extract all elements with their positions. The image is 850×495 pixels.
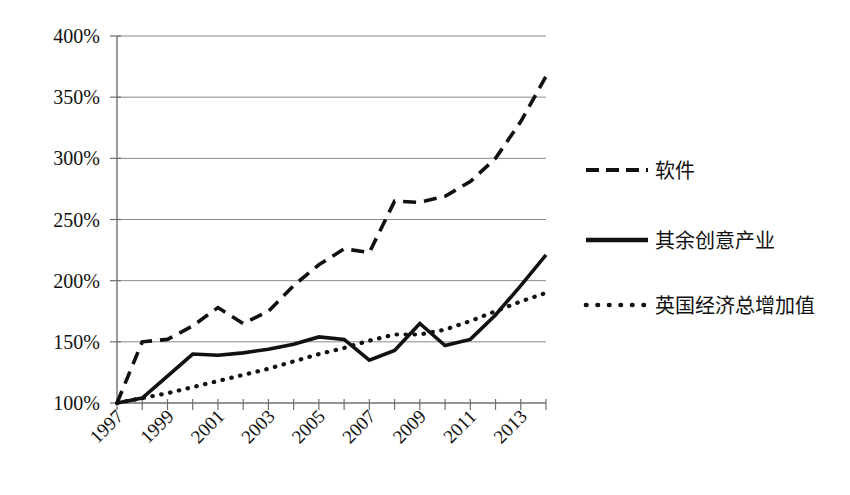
y-tick-label: 150% (53, 331, 100, 353)
y-tick-label: 200% (53, 270, 100, 292)
y-tick-label: 400% (53, 25, 100, 47)
x-tick-label: 2007 (338, 406, 380, 448)
y-tick-label: 100% (53, 392, 100, 414)
chart-figure: 400%350%300%250%200%150%100% 19971999200… (0, 0, 850, 495)
x-tick-label: 2003 (237, 406, 279, 448)
x-tick-label: 2001 (186, 406, 228, 448)
legend-label: 软件 (655, 160, 695, 182)
legend-label: 英国经济总增加值 (655, 295, 815, 317)
line-chart-canvas: 400%350%300%250%200%150%100% 19971999200… (0, 0, 850, 495)
x-tick-label: 2005 (287, 406, 329, 448)
x-tick-label: 2011 (439, 406, 480, 447)
gridlines (117, 36, 546, 342)
x-tick-label: 2013 (489, 406, 531, 448)
series-line-dotted (117, 293, 546, 403)
y-tick-marks (110, 36, 121, 403)
y-tick-labels: 400%350%300%250%200%150%100% (53, 25, 100, 414)
x-tick-label: 1999 (136, 406, 178, 448)
series-line-dashed (117, 76, 546, 403)
x-tick-marks (117, 399, 546, 410)
series-line-solid (117, 255, 546, 403)
legend-label: 其余创意产业 (655, 230, 775, 252)
x-tick-labels: 199719992001200320052007200920112013 (86, 406, 531, 448)
chart-legend: 软件其余创意产业英国经济总增加值 (586, 160, 815, 317)
data-series (117, 76, 546, 403)
x-tick-label: 2009 (388, 406, 430, 448)
y-tick-label: 250% (53, 209, 100, 231)
y-tick-label: 300% (53, 147, 100, 169)
y-tick-label: 350% (53, 86, 100, 108)
